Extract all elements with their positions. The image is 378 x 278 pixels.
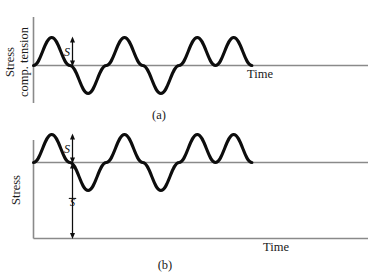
panel-b-amplitude-arrow-head-up	[70, 134, 75, 140]
panel-b-y-axis-label-line1: Stress	[9, 175, 23, 205]
panel-a-amplitude-arrow-head-up	[70, 37, 75, 43]
panel-a-caption: (a)	[152, 108, 166, 122]
panel-b-caption: (b)	[158, 258, 173, 272]
panel-a-y-axis-label-line1: Stress	[3, 47, 17, 77]
figure-container: S Time Stress comp. tension (a) S	[0, 0, 378, 278]
panel-a-amplitude-label: S	[64, 45, 70, 59]
stress-time-figure: S Time Stress comp. tension (a) S	[0, 0, 378, 278]
panel-b-amplitude-label: S	[64, 142, 70, 156]
panel-b-group: S S Time Stress (b)	[9, 134, 368, 272]
panel-a-x-axis-label: Time	[247, 67, 273, 81]
panel-b-x-axis-label: Time	[263, 240, 289, 254]
panel-a-group: S Time Stress comp. tension (a)	[3, 17, 369, 122]
panel-a-y-axis-label-line2: comp. tension	[17, 26, 31, 97]
